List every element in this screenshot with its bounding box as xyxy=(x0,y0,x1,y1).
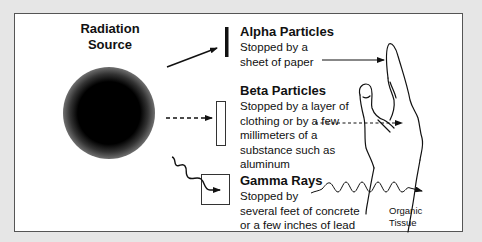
aluminum-barrier-icon xyxy=(217,102,226,146)
hand-outline-icon xyxy=(359,44,422,232)
alpha-arrow-icon xyxy=(167,48,217,67)
gamma-through-hand-wavy-arrow-icon xyxy=(311,182,422,193)
diagram-graphics xyxy=(0,0,482,242)
paper-barrier-icon xyxy=(225,27,229,57)
gamma-wavy-arrow-icon xyxy=(172,157,220,190)
